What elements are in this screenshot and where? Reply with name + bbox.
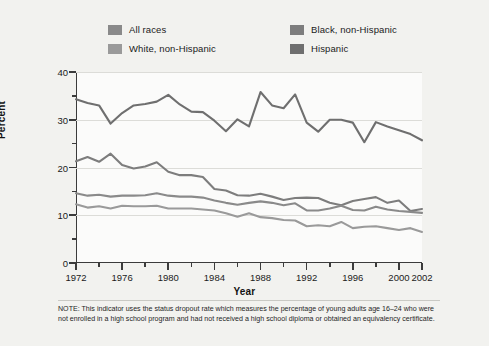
legend-swatch-icon — [108, 25, 122, 35]
x-tick-label: 1980 — [158, 272, 179, 283]
legend-item: White, non-Hispanic — [108, 43, 216, 54]
y-tick-label: 0 — [44, 258, 68, 269]
chart-figure: All racesBlack, non-HispanicWhite, non-H… — [0, 0, 489, 346]
x-tick-mark-minor — [375, 263, 377, 267]
x-tick-label: 1988 — [250, 272, 271, 283]
y-tick-label: 10 — [44, 210, 68, 221]
legend-swatch-icon — [290, 25, 304, 35]
legend-item: Black, non-Hispanic — [290, 24, 397, 35]
y-axis-label: Percent — [0, 101, 7, 139]
legend-swatch-icon — [290, 44, 304, 54]
x-tick-mark — [121, 263, 123, 270]
y-axis-tick-marks — [68, 72, 76, 263]
x-tick-label: 1984 — [204, 272, 225, 283]
legend-label: Hispanic — [311, 43, 348, 54]
legend-label: Black, non-Hispanic — [311, 24, 397, 35]
x-tick-label: 1976 — [112, 272, 133, 283]
note-divider — [58, 300, 440, 301]
x-tick-label: 1996 — [342, 272, 363, 283]
plot-area — [76, 72, 422, 263]
x-tick-mark — [306, 263, 308, 270]
legend-swatch-icon — [108, 44, 122, 54]
y-tick-label: 40 — [44, 67, 68, 78]
legend-item: Hispanic — [290, 43, 348, 54]
legend-item: All races — [108, 24, 166, 35]
chart-legend: All racesBlack, non-HispanicWhite, non-H… — [108, 24, 398, 62]
legend-label: All races — [129, 24, 166, 35]
x-tick-label: 2000 — [388, 272, 409, 283]
x-tick-mark — [352, 263, 354, 270]
x-tick-mark — [75, 263, 77, 270]
x-axis-label: Year — [0, 286, 489, 297]
legend-label: White, non-Hispanic — [129, 43, 216, 54]
x-tick-mark-minor — [144, 263, 146, 267]
y-tick-mark — [69, 167, 76, 169]
x-tick-mark-minor — [191, 263, 193, 267]
series-lines — [76, 72, 422, 263]
y-tick-mark — [69, 214, 76, 216]
y-tick-label: 20 — [44, 162, 68, 173]
x-axis-tick-marks — [76, 263, 422, 271]
y-axis-tick-labels: 010203040 — [42, 72, 68, 263]
x-tick-mark — [398, 263, 400, 270]
x-tick-label: 1972 — [65, 272, 86, 283]
y-tick-mark — [69, 119, 76, 121]
x-tick-mark-minor — [329, 263, 331, 267]
x-tick-mark — [214, 263, 216, 270]
y-tick-mark — [69, 71, 76, 73]
x-tick-mark-minor — [98, 263, 100, 267]
x-axis-tick-labels: 197219761980198419881992199620002002 — [76, 272, 422, 286]
y-tick-label: 30 — [44, 114, 68, 125]
x-tick-mark — [421, 263, 423, 270]
x-tick-mark-minor — [237, 263, 239, 267]
x-tick-mark — [260, 263, 262, 270]
x-tick-label: 1992 — [296, 272, 317, 283]
series-line — [76, 92, 422, 142]
chart-note: NOTE: This indicator uses the status dro… — [58, 304, 444, 325]
x-tick-mark-minor — [283, 263, 285, 267]
x-tick-mark — [167, 263, 169, 270]
x-tick-label: 2002 — [411, 272, 432, 283]
